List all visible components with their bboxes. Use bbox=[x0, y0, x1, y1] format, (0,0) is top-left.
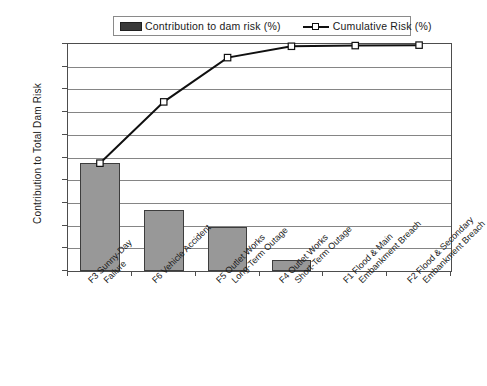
x-tick-mark bbox=[67, 271, 68, 276]
cumulative-line bbox=[100, 45, 419, 163]
x-tick-mark bbox=[195, 271, 196, 276]
legend-item-bar-series: Contribution to dam risk (%) bbox=[120, 20, 281, 32]
line-marker bbox=[161, 99, 167, 105]
legend-label-line: Cumulative Risk (%) bbox=[333, 20, 432, 32]
line-marker bbox=[97, 160, 103, 166]
x-tick-mark bbox=[131, 271, 132, 276]
chart-legend: Contribution to dam risk (%) Cumulative … bbox=[113, 16, 411, 36]
y-axis-title: Contribution to Total Dam Risk bbox=[32, 54, 43, 254]
line-marker bbox=[416, 42, 422, 48]
x-tick-mark bbox=[322, 271, 323, 276]
line-marker bbox=[352, 42, 358, 48]
legend-label-bar: Contribution to dam risk (%) bbox=[145, 20, 281, 32]
line-marker bbox=[224, 54, 230, 60]
bar-swatch-icon bbox=[120, 22, 142, 31]
x-tick-mark bbox=[259, 271, 260, 276]
line-marker-icon bbox=[303, 22, 329, 31]
legend-item-line-series: Cumulative Risk (%) bbox=[303, 20, 432, 32]
line-marker bbox=[288, 43, 294, 49]
x-tick-mark bbox=[450, 271, 451, 276]
x-tick-mark bbox=[386, 271, 387, 276]
